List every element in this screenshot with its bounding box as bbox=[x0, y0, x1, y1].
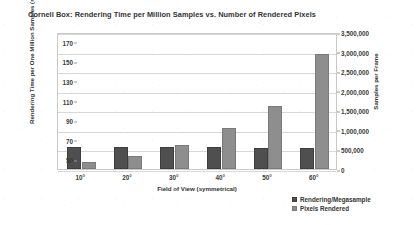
y-tick-label-left: 110 bbox=[33, 98, 73, 105]
y-tick-label-right: 2,500,000 bbox=[341, 69, 401, 76]
bar-rendering-megasample bbox=[207, 147, 221, 170]
y-tick-label-left: 50 bbox=[33, 157, 73, 164]
x-axis-title: Field of View (symmetrical) bbox=[57, 185, 337, 192]
x-tick-label: 60° bbox=[309, 174, 319, 181]
bar-rendering-megasample bbox=[160, 147, 174, 170]
bar-pixels-rendered bbox=[268, 106, 282, 169]
y-tick-label-right: 500,000 bbox=[341, 147, 401, 154]
y-tick-label-left: 130 bbox=[33, 78, 73, 85]
gridline bbox=[58, 34, 336, 35]
legend-swatch-icon bbox=[292, 197, 297, 202]
tick-mark bbox=[74, 102, 77, 103]
y-tick-label-right: 1,000,000 bbox=[341, 127, 401, 134]
y-tick-label-left: 150 bbox=[33, 59, 73, 66]
gridline bbox=[58, 54, 336, 55]
y-tick-label-right: 2,000,000 bbox=[341, 88, 401, 95]
y-tick-label-right: 3,500,000 bbox=[341, 30, 401, 37]
gridline bbox=[58, 73, 336, 74]
tick-mark bbox=[337, 111, 340, 112]
legend-label: Rendering/Megasample bbox=[300, 196, 371, 203]
chart-container: Cornell Box: Rendering Time per Million … bbox=[0, 0, 416, 225]
tick-mark bbox=[337, 131, 340, 132]
gridline bbox=[58, 151, 336, 152]
y-tick-label-left: 90 bbox=[33, 118, 73, 125]
tick-mark bbox=[337, 33, 340, 34]
tick-mark bbox=[337, 150, 340, 151]
tick-mark bbox=[74, 141, 77, 142]
x-tick-label: 40° bbox=[216, 174, 226, 181]
bar-pixels-rendered bbox=[175, 145, 189, 169]
chart-title: Cornell Box: Rendering Time per Million … bbox=[28, 10, 400, 19]
chart-legend: Rendering/Megasample Pixels Rendered bbox=[292, 196, 371, 214]
y-axis-title-right: Samples per Frame bbox=[372, 32, 379, 132]
legend-label: Pixels Rendered bbox=[300, 205, 349, 212]
y-tick-label-right: 3,000,000 bbox=[341, 49, 401, 56]
y-tick-label-right: 1,500,000 bbox=[341, 108, 401, 115]
x-tick-label: 10° bbox=[76, 174, 86, 181]
tick-mark bbox=[74, 82, 77, 83]
legend-item-pixels-rendered: Pixels Rendered bbox=[292, 205, 371, 212]
tick-mark bbox=[337, 92, 340, 93]
tick-mark bbox=[74, 62, 77, 63]
x-tick-label: 50° bbox=[262, 174, 272, 181]
tick-mark bbox=[337, 53, 340, 54]
tick-mark bbox=[337, 72, 340, 73]
legend-swatch-icon bbox=[292, 206, 297, 211]
gridline bbox=[58, 112, 336, 113]
gridline bbox=[58, 132, 336, 133]
legend-item-rendering-megasample: Rendering/Megasample bbox=[292, 196, 371, 203]
bar-rendering-megasample bbox=[300, 148, 314, 170]
x-tick-label: 20° bbox=[122, 174, 132, 181]
tick-mark bbox=[74, 121, 77, 122]
x-tick-label: 30° bbox=[169, 174, 179, 181]
gridline bbox=[58, 93, 336, 94]
bar-rendering-megasample bbox=[114, 147, 128, 170]
y-tick-label-right: 0 bbox=[341, 167, 401, 174]
bar-pixels-rendered bbox=[315, 54, 329, 170]
y-tick-label-left: 170 bbox=[33, 39, 73, 46]
plot-area bbox=[57, 33, 337, 170]
y-tick-label-left: 70 bbox=[33, 137, 73, 144]
tick-mark bbox=[74, 43, 77, 44]
bar-pixels-rendered bbox=[222, 128, 236, 169]
gridline bbox=[58, 171, 336, 172]
tick-mark bbox=[74, 160, 77, 161]
bar-pixels-rendered bbox=[128, 156, 142, 169]
tick-mark bbox=[337, 170, 340, 171]
bar-rendering-megasample bbox=[254, 148, 268, 170]
bar-pixels-rendered bbox=[82, 162, 96, 169]
